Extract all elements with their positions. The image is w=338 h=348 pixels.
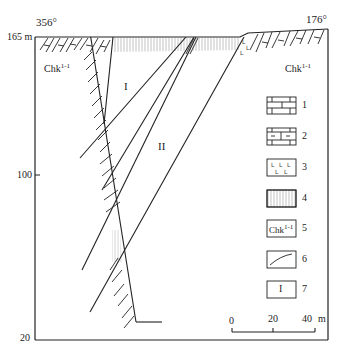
scale-tick-40: 40 <box>302 314 312 324</box>
legend-num-1: 1 <box>302 100 307 110</box>
legend-num-4: 4 <box>302 193 307 203</box>
legend-num-5: 5 <box>302 223 307 233</box>
azimuth-right-label: 176° <box>306 14 327 25</box>
azimuth-left-label: 356° <box>36 17 57 28</box>
scale-tick-0: 0 <box>229 316 234 326</box>
legend-symbol-1 <box>267 97 296 114</box>
scale-bar <box>232 328 315 332</box>
limestone-zone-left <box>40 38 134 328</box>
legend-num-3: 3 <box>302 162 307 172</box>
elevation-mid-label: 100 <box>17 170 32 180</box>
scale-unit: m <box>318 314 326 324</box>
legend-num-2: 2 <box>302 131 307 141</box>
legend <box>267 97 296 298</box>
legend-text-5: Chk1-1 <box>269 224 293 235</box>
svg-text:L: L <box>240 49 244 56</box>
elevation-bottom-label: 20 <box>20 333 30 343</box>
formation-left-label: Chk1-1 <box>44 63 70 74</box>
scale-tick-20: 20 <box>268 314 278 324</box>
formation-right-label: Chk1-1 <box>285 63 311 74</box>
cross-section-diagram: L L L <box>0 0 338 348</box>
legend-symbol-2 <box>267 128 296 145</box>
legend-num-7: 7 <box>302 284 307 294</box>
legend-symbol-4 <box>267 190 296 207</box>
legend-symbol-6 <box>267 251 296 268</box>
elevation-top-label: 165 m <box>7 32 32 42</box>
geologic-lines <box>80 20 244 322</box>
orebody-1-label: I <box>124 81 128 92</box>
hatch-zone <box>112 38 240 262</box>
orebody-2-label: II <box>158 141 165 152</box>
svg-text:L: L <box>246 44 250 51</box>
legend-num-6: 6 <box>302 254 307 264</box>
legend-text-7: I <box>279 284 282 294</box>
